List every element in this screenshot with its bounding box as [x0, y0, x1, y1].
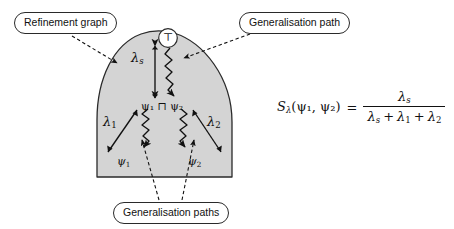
callout-refinement-graph[interactable]: Refinement graph	[14, 12, 117, 34]
label-psi-meet: ψ₁ ⊓ ψ₂	[141, 100, 183, 113]
numerator-sub: s	[406, 95, 410, 105]
top-element-symbol: ⊤	[163, 31, 173, 44]
den-term-0-base: λ	[367, 109, 375, 124]
leader-refinement-graph	[72, 36, 117, 63]
callout-generalisation-paths[interactable]: Generalisation paths	[113, 202, 229, 224]
lambda-1-sub: 1	[111, 120, 116, 130]
label-lambda-1: λ1	[103, 114, 117, 130]
den-term-1-sub: 1	[405, 116, 410, 126]
formula-fraction: λs λs+λ1+λ2	[363, 89, 445, 126]
psi-1-base: ψ	[117, 155, 126, 168]
formula-function: S	[277, 99, 286, 114]
den-op-0: +	[383, 109, 394, 124]
similarity-formula: Sλ(ψ₁, ψ₂) = λs λs+λ1+λ2	[277, 89, 445, 126]
den-term-2-sub: 2	[436, 116, 441, 126]
den-op-1: +	[414, 109, 425, 124]
lambda-2-sub: 2	[215, 120, 220, 130]
lambda-1-base: λ	[103, 114, 111, 129]
figure-canvas: ⊤ λs λ1 λ2 ψ₁ ⊓ ψ₂ ψ1 ψ2 Refinement grap…	[0, 0, 454, 229]
label-psi-2: ψ2	[188, 155, 201, 169]
label-psi-1: ψ1	[117, 155, 130, 169]
formula-equals: =	[347, 100, 358, 115]
label-lambda-s: λs	[131, 50, 144, 66]
formula-numerator: λs	[392, 89, 417, 106]
formula-denominator: λs+λ1+λ2	[363, 107, 445, 125]
lambda-s-base: λ	[131, 50, 139, 65]
psi-1-sub: 1	[126, 160, 131, 169]
formula-args: (ψ₁, ψ₂)	[291, 99, 340, 114]
den-term-2-base: λ	[428, 109, 436, 124]
den-term-0-sub: s	[376, 116, 380, 126]
psi-2-base: ψ	[188, 155, 197, 168]
psi-2-sub: 2	[197, 160, 202, 169]
formula-lhs: Sλ(ψ₁, ψ₂)	[277, 99, 341, 115]
lambda-s-sub: s	[139, 56, 143, 66]
label-lambda-2: λ2	[207, 114, 221, 130]
callout-generalisation-path[interactable]: Generalisation path	[239, 12, 350, 34]
lambda-2-base: λ	[207, 114, 215, 129]
